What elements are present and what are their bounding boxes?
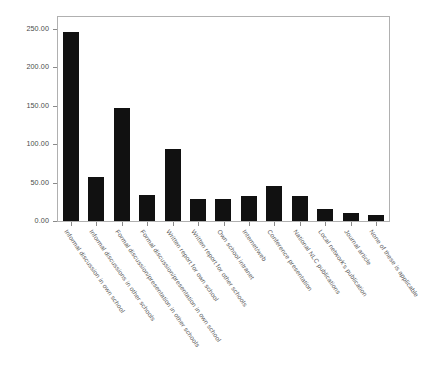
x-axis-tick-mark (198, 222, 199, 226)
y-axis-tick-label: 150.00 (26, 101, 49, 110)
bar (215, 199, 231, 221)
bar-slot (58, 17, 83, 221)
bar (63, 32, 79, 221)
bar-chart: 0.0050.00100.00150.00200.00250.00 Inform… (0, 0, 447, 375)
bar-slot (109, 17, 134, 221)
x-axis-tick-label: National NLC publications (292, 228, 342, 295)
x-axis-tick-label: Conference presentation (267, 228, 315, 292)
y-axis-tick-label: 50.00 (31, 178, 50, 187)
bar-slot (364, 17, 389, 221)
x-axis-tick-label: Local network's publication (318, 228, 370, 298)
bar (139, 195, 155, 221)
x-axis-tick-mark (274, 222, 275, 226)
x-axis-tick-mark (351, 222, 352, 226)
x-axis-tick-mark (224, 222, 225, 226)
bar (368, 215, 384, 221)
y-axis-tick-label: 100.00 (26, 139, 49, 148)
x-axis-ticks (58, 222, 389, 227)
x-axis-tick-mark (71, 222, 72, 226)
x-axis-labels: Informal discussion in own schoolInforma… (58, 228, 447, 375)
bar (266, 186, 282, 221)
bar-slot (134, 17, 159, 221)
x-axis-tick-mark (325, 222, 326, 226)
bar (343, 213, 359, 221)
bar (317, 209, 333, 221)
y-axis-tick-label: 200.00 (26, 62, 49, 71)
x-axis-tick-label: Internet/web (241, 228, 268, 262)
bar-slot (236, 17, 261, 221)
y-axis: 0.0050.00100.00150.00200.00250.00 (0, 16, 57, 222)
bar-slot (313, 17, 338, 221)
bar (292, 196, 308, 221)
bar (114, 108, 130, 221)
bar-slot (185, 17, 210, 221)
x-axis-tick-mark (147, 222, 148, 226)
bar-slot (211, 17, 236, 221)
x-axis-tick-mark (122, 222, 123, 226)
bar-slot (262, 17, 287, 221)
x-axis-tick-label: Written report for own school (165, 228, 220, 302)
y-axis-tick-label: 0.00 (35, 216, 49, 225)
bar (165, 149, 181, 221)
bar-slot (83, 17, 108, 221)
y-axis-tick-label: 250.00 (26, 24, 49, 33)
bar (241, 196, 257, 221)
bar (88, 177, 104, 221)
x-axis-tick-mark (96, 222, 97, 226)
x-axis-tick-mark (376, 222, 377, 226)
bar-slot (338, 17, 363, 221)
bar-slot (160, 17, 185, 221)
x-axis-tick-mark (173, 222, 174, 226)
x-axis-tick-mark (249, 222, 250, 226)
bar-slot (287, 17, 312, 221)
bars-layer (58, 17, 389, 221)
bar (190, 199, 206, 221)
x-axis-tick-label: Journal article (343, 228, 373, 266)
x-axis-tick-label: None of these is applicable (369, 228, 421, 298)
x-axis-tick-mark (300, 222, 301, 226)
